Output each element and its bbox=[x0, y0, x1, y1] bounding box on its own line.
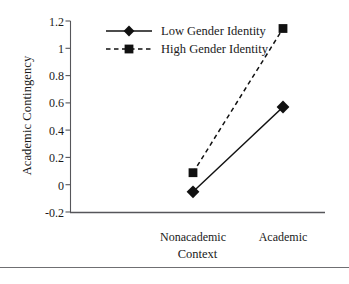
x-axis-title-text: Context bbox=[178, 247, 218, 262]
data-point-high-nonacademic bbox=[189, 168, 198, 177]
legend-key-high-gender-identity bbox=[104, 42, 154, 56]
x-axis-title: Context bbox=[0, 247, 349, 262]
x-tick-label-academic: Academic bbox=[243, 231, 323, 243]
legend-key-low-gender-identity bbox=[104, 24, 154, 38]
bottom-divider bbox=[0, 267, 349, 268]
legend-label-low-gender-identity: Low Gender Identity bbox=[154, 25, 266, 38]
legend-entry-low-gender-identity: Low Gender Identity bbox=[104, 22, 268, 40]
legend-label-high-gender-identity: High Gender Identity bbox=[154, 43, 268, 56]
figure: Academic Contingency 1.2 1 0.8 0.6 0.4 0… bbox=[0, 0, 349, 284]
data-point-high-academic bbox=[279, 24, 288, 33]
legend-entry-high-gender-identity: High Gender Identity bbox=[104, 40, 268, 58]
legend: Low Gender Identity High Gender Identity bbox=[104, 22, 268, 58]
x-tick-label-nonacademic: Nonacademic bbox=[143, 231, 243, 243]
series-low-gender-identity-line bbox=[193, 107, 283, 192]
y-axis-ticks bbox=[66, 21, 71, 212]
